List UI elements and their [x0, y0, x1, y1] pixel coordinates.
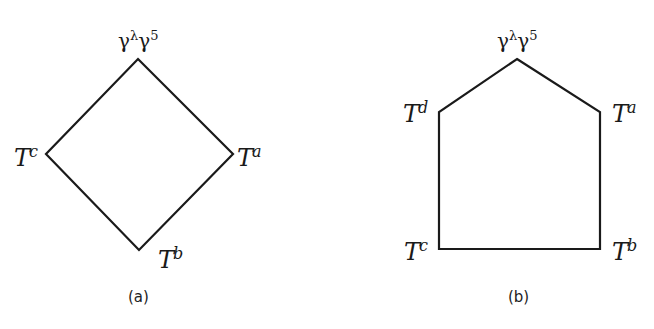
lambda-superscript: λ — [130, 28, 138, 43]
superscript: c — [29, 142, 38, 161]
label-a-right: Ta — [237, 144, 262, 170]
gamma-symbol: γ — [118, 29, 130, 53]
T-symbol: T — [14, 144, 30, 172]
diamond-a — [46, 59, 233, 250]
superscript: c — [419, 236, 428, 255]
five-superscript: 5 — [150, 28, 158, 43]
caption-a: (a) — [128, 290, 149, 305]
label-b-lower-right: Tb — [612, 238, 637, 264]
T-symbol: T — [612, 238, 628, 266]
T-symbol: T — [612, 100, 628, 128]
superscript: b — [173, 244, 183, 263]
gamma-symbol: γ — [138, 29, 150, 53]
label-b-lower-left: Tc — [404, 238, 428, 264]
label-b-upper-left: Td — [403, 100, 428, 126]
label-a-bottom: Tb — [158, 246, 183, 272]
gamma-symbol: γ — [517, 29, 529, 53]
label-a-top: γλγ5 — [118, 29, 158, 51]
T-symbol: T — [237, 144, 253, 172]
lambda-superscript: λ — [509, 28, 517, 43]
T-symbol: T — [158, 246, 174, 274]
five-superscript: 5 — [529, 28, 537, 43]
superscript: a — [627, 98, 637, 117]
pentagon-b — [439, 59, 600, 249]
caption-b: (b) — [508, 290, 529, 305]
T-symbol: T — [404, 238, 420, 266]
superscript: b — [627, 236, 637, 255]
diagram-canvas — [0, 0, 654, 329]
label-a-left: Tc — [14, 144, 38, 170]
T-symbol: T — [403, 100, 419, 128]
label-b-top: γλγ5 — [497, 29, 537, 51]
gamma-symbol: γ — [497, 29, 509, 53]
label-b-upper-right: Ta — [612, 100, 637, 126]
superscript: d — [418, 98, 428, 117]
superscript: a — [252, 142, 262, 161]
